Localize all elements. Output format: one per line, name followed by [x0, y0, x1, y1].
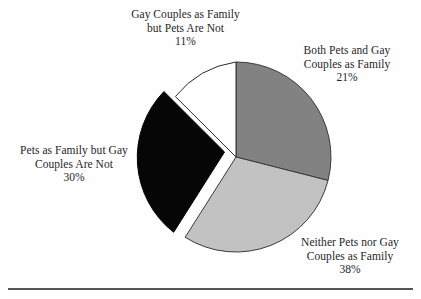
pie-label-both-pets-and-gay-couples: Both Pets and Gay Couples as Family 21%: [274, 44, 420, 85]
pie-chart-figure: Gay Couples as Family but Pets Are Not 1…: [0, 0, 421, 299]
pie-label-value: 38%: [280, 263, 420, 277]
figure-bottom-rule: [8, 288, 413, 290]
pie-label-gay-couples-as-family-but-pets-not: Gay Couples as Family but Pets Are Not 1…: [108, 8, 263, 49]
pie-label-line-1: Both Pets and Gay: [274, 44, 420, 58]
pie-label-line-2: Couples as Family: [280, 250, 420, 264]
pie-label-line-2: Couples as Family: [274, 58, 420, 72]
pie-label-line-1: Neither Pets nor Gay: [280, 236, 420, 250]
pie-label-line-1: Pets as Family but Gay: [2, 144, 146, 158]
pie-label-value: 11%: [108, 35, 263, 49]
pie-label-neither-pets-nor-gay-couples: Neither Pets nor Gay Couples as Family 3…: [280, 236, 420, 277]
pie-label-pets-as-family-but-gay-couples-not: Pets as Family but Gay Couples Are Not 3…: [2, 144, 146, 185]
pie-label-value: 21%: [274, 71, 420, 85]
chart-plot-area: Gay Couples as Family but Pets Are Not 1…: [0, 0, 421, 299]
pie-label-line-1: Gay Couples as Family: [108, 8, 263, 22]
pie-label-line-2: Couples Are Not: [2, 158, 146, 172]
pie-label-value: 30%: [2, 171, 146, 185]
pie-label-line-2: but Pets Are Not: [108, 22, 263, 36]
